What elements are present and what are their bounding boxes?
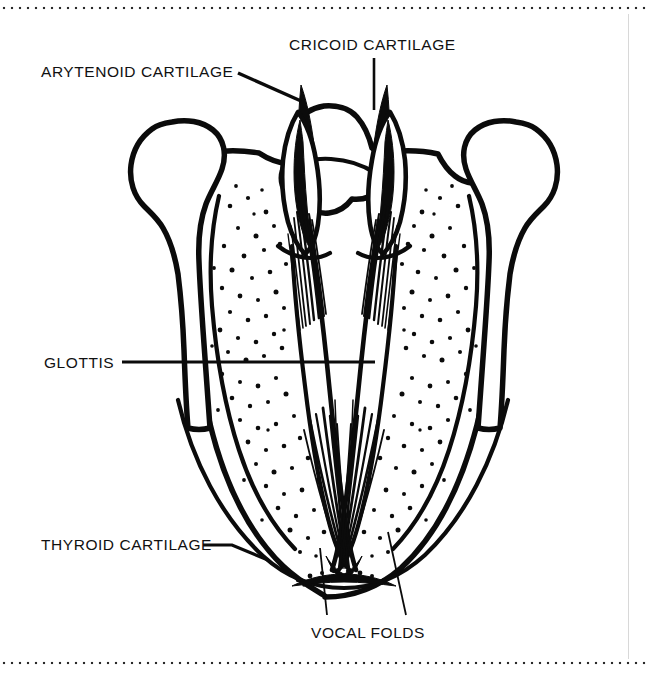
- label-thyroid-cartilage: THYROID CARTILAGE: [41, 536, 212, 553]
- label-cricoid-cartilage: CRICOID CARTILAGE: [289, 36, 456, 53]
- larynx-diagram: ARYTENOID CARTILAGE CRICOID CARTILAGE GL…: [0, 0, 650, 684]
- label-arytenoid-cartilage: ARYTENOID CARTILAGE: [41, 63, 233, 80]
- label-glottis: GLOTTIS: [44, 354, 114, 371]
- leader-arytenoid: [238, 73, 301, 101]
- anatomy-figure: ARYTENOID CARTILAGE CRICOID CARTILAGE GL…: [0, 0, 650, 684]
- label-vocal-folds: VOCAL FOLDS: [311, 624, 425, 641]
